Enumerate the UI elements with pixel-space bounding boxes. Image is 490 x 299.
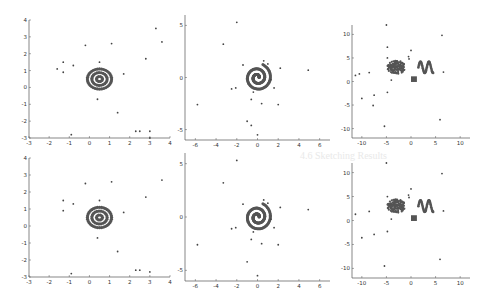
outlier-point (111, 181, 113, 183)
x-tick-label: 4 (168, 140, 172, 146)
outlier-point (70, 134, 72, 136)
x-tick-label: 5 (434, 280, 438, 286)
outlier-point (72, 65, 74, 67)
outlier-point (384, 125, 386, 127)
outlier-point (161, 179, 163, 181)
outlier-point (410, 188, 412, 190)
x-tick-label: 2 (128, 140, 132, 146)
outlier-point (97, 98, 99, 100)
x-tick-label: -2 (234, 142, 239, 148)
x-tick-label: 4 (168, 279, 172, 285)
y-tick-label: -5 (178, 127, 184, 133)
outlier-point (99, 200, 101, 202)
scatter-plot-bottom-middle: -6-4-20246-505 (178, 153, 330, 289)
outlier-point (97, 237, 99, 239)
y-tick-label: 0 (347, 218, 351, 224)
outlier-point (56, 68, 58, 70)
outlier-point (111, 43, 113, 45)
outlier-point (236, 21, 238, 23)
outlier-point (387, 231, 389, 233)
outlier-point (270, 79, 272, 81)
x-tick-label: 3 (148, 140, 152, 146)
y-tick-label: 4 (24, 17, 28, 23)
y-tick-label: -3 (22, 135, 28, 141)
outlier-point (139, 130, 141, 132)
outlier-point (222, 182, 224, 184)
outlier-point (263, 199, 265, 201)
y-tick-label: -3 (22, 274, 28, 280)
x-tick-label: 0 (256, 283, 260, 289)
outlier-point (387, 196, 389, 198)
outlier-point (161, 41, 163, 43)
scatter-plot-top-middle: -6-4-20246-505 (178, 15, 330, 148)
x-tick-label: 0 (88, 140, 92, 146)
x-tick-label: 6 (318, 142, 322, 148)
outlier-point (408, 197, 410, 199)
outlier-point (408, 56, 410, 58)
y-tick-label: 5 (180, 22, 184, 28)
y-tick-label: 10 (343, 170, 350, 176)
outlier-point (387, 91, 389, 93)
outlier-point (261, 103, 263, 105)
y-tick-label: 1 (24, 68, 28, 74)
outlier-point (231, 228, 233, 230)
x-tick-label: -2 (46, 140, 51, 146)
outlier-point (277, 104, 279, 106)
outlier-point (235, 227, 237, 229)
scatter-plot-top-left: -3-2-101234-3-2-101234 (22, 17, 173, 146)
outlier-point (145, 58, 147, 60)
y-tick-label: 0 (347, 79, 351, 85)
outlier-point (155, 28, 157, 30)
y-tick-label: 2 (24, 189, 28, 195)
x-tick-label: 0 (88, 279, 92, 285)
outlier-point (197, 104, 199, 106)
outlier-point (85, 44, 87, 46)
outlier-point (270, 218, 272, 220)
outlier-point (390, 218, 392, 220)
x-tick-label: 10 (457, 140, 464, 146)
outlier-point (373, 94, 375, 96)
outlier-point (222, 43, 224, 45)
y-tick-label: -10 (341, 126, 350, 132)
x-tick-label: -6 (193, 283, 199, 289)
outlier-point (373, 233, 375, 235)
y-tick-label: -2 (22, 257, 27, 263)
outlier-point (250, 239, 252, 241)
x-tick-label: -10 (357, 280, 366, 286)
figure-grid: -3-2-101234-3-2-101234-6-4-20246-505-10-… (0, 0, 490, 299)
x-tick-label: 5 (434, 140, 438, 146)
y-tick-label: -10 (341, 265, 350, 271)
outlier-point (390, 79, 392, 81)
x-tick-label: 2 (128, 279, 132, 285)
scatter-plot-bottom-left: -3-2-101234-3-2-101234 (22, 155, 173, 285)
x-tick-label: 6 (318, 283, 322, 289)
outlier-point (236, 160, 238, 162)
outlier-point (372, 105, 374, 107)
outlier-point (439, 258, 441, 260)
x-tick-label: 0 (409, 280, 413, 286)
x-tick-label: 1 (108, 279, 112, 285)
outlier-point (149, 137, 151, 139)
x-tick-label: 2 (276, 283, 280, 289)
outlier-point (387, 46, 389, 48)
outlier-point (231, 88, 233, 90)
y-tick-label: 10 (343, 31, 350, 37)
outlier-point (273, 87, 275, 89)
outlier-point (145, 196, 147, 198)
y-tick-label: -5 (345, 102, 351, 108)
x-tick-label: -3 (26, 279, 32, 285)
outlier-point (117, 112, 119, 114)
outlier-point (250, 125, 252, 127)
x-tick-label: -4 (213, 142, 219, 148)
x-tick-label: -2 (234, 283, 239, 289)
y-tick-label: 0 (24, 223, 28, 229)
y-tick-label: -1 (22, 240, 27, 246)
outlier-point (261, 243, 263, 245)
y-tick-label: 0 (180, 75, 184, 81)
outlier-point (99, 61, 101, 63)
outlier-point (123, 73, 125, 75)
outlier-point (123, 212, 125, 214)
outlier-point (408, 194, 410, 196)
outlier-point (439, 119, 441, 121)
outlier-point (358, 73, 360, 75)
